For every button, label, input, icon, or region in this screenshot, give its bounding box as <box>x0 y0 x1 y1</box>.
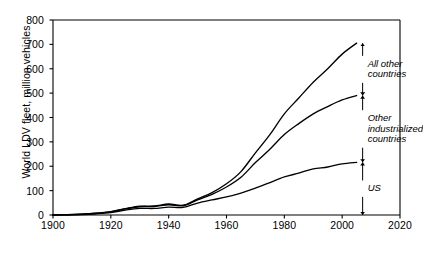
annotation-line: US <box>368 183 381 194</box>
data-curves <box>53 43 357 215</box>
curve-all-other-countries <box>53 43 357 215</box>
curve-us <box>53 162 357 215</box>
annotation-line: countries <box>368 134 423 145</box>
annotation-line: countries <box>368 69 407 80</box>
curve-other-industrialized-countries <box>53 96 357 215</box>
annotation-all-other-countries: All othercountries <box>368 59 407 80</box>
annotation-other-industrialized-countries: Otherindustrializedcountries <box>368 113 423 145</box>
annotation-us: US <box>368 183 381 194</box>
